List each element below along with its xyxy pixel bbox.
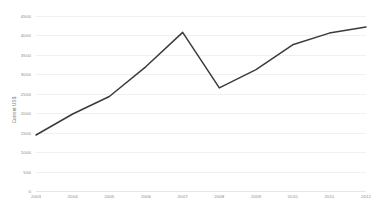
x-axis-tick-label: 2004 <box>68 194 78 199</box>
y-axis-tick-label: 2000 <box>21 111 31 116</box>
y-axis-tick-label: 1000 <box>21 150 31 155</box>
line-chart: Current US$ 0500100015002000250030003500… <box>0 0 372 219</box>
plot-area <box>36 16 366 191</box>
x-axis-tick-labels: 2003200420052006200720082009201020112012 <box>36 194 366 208</box>
gridline <box>36 191 366 192</box>
x-axis-tick-label: 2006 <box>141 194 151 199</box>
y-axis-tick-label: 500 <box>23 169 31 174</box>
y-axis-tick-label: 4000 <box>21 33 31 38</box>
x-axis-tick-label: 2008 <box>214 194 224 199</box>
y-axis-tick-labels: 050010001500200025003000350040004500 <box>0 16 34 191</box>
x-axis-tick-label: 2009 <box>251 194 261 199</box>
y-axis-tick-label: 1500 <box>21 130 31 135</box>
data-line-svg <box>36 16 366 191</box>
x-axis-tick-label: 2003 <box>31 194 41 199</box>
y-axis-tick-label: 2500 <box>21 91 31 96</box>
x-axis-tick-label: 2012 <box>361 194 371 199</box>
x-axis-tick-label: 2011 <box>324 194 334 199</box>
y-axis-tick-label: 4500 <box>21 14 31 19</box>
x-axis-tick-label: 2005 <box>104 194 114 199</box>
x-axis-tick-label: 2010 <box>288 194 298 199</box>
y-axis-tick-label: 3500 <box>21 52 31 57</box>
y-axis-tick-label: 0 <box>28 189 31 194</box>
data-series-line <box>36 27 366 135</box>
y-axis-tick-label: 3000 <box>21 72 31 77</box>
x-axis-tick-label: 2007 <box>178 194 188 199</box>
